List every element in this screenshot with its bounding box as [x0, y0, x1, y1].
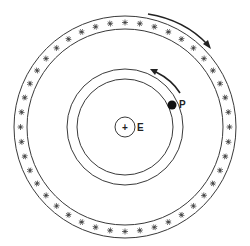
geocentric-diagram: + E P	[0, 0, 250, 246]
star-icon	[19, 139, 25, 145]
star-icon	[122, 229, 128, 235]
star-icon	[79, 219, 85, 225]
star-icon	[22, 154, 28, 160]
star-icon	[18, 124, 24, 130]
star-icon	[227, 124, 233, 130]
star-icon	[43, 56, 49, 62]
star-icon	[19, 109, 25, 115]
star-icon	[190, 45, 196, 51]
star-icon	[225, 109, 231, 115]
star-icon	[93, 24, 99, 30]
star-icon	[107, 21, 113, 27]
star-icon	[222, 95, 228, 101]
earth: + E	[115, 117, 144, 137]
star-icon	[107, 227, 113, 233]
star-icon	[217, 81, 223, 87]
planet-motion-arrow	[156, 72, 180, 93]
star-icon	[201, 192, 207, 198]
planet-dot	[168, 101, 177, 110]
star-icon	[201, 56, 207, 62]
star-icon	[27, 168, 33, 174]
star-icon	[225, 139, 231, 145]
star-icon	[210, 181, 216, 187]
star-icon	[152, 24, 158, 30]
earth-label: E	[137, 122, 144, 133]
star-icon	[137, 227, 143, 233]
star-icon	[166, 29, 172, 35]
star-icon	[27, 81, 33, 87]
star-icon	[54, 45, 60, 51]
star-icon	[66, 212, 72, 218]
star-icon	[222, 154, 228, 160]
star-icon	[152, 224, 158, 230]
star-icon	[79, 29, 85, 35]
star-icon	[137, 21, 143, 27]
planet-label: P	[179, 99, 186, 110]
star-icon	[93, 224, 99, 230]
star-icon	[43, 192, 49, 198]
star-icon	[179, 212, 185, 218]
star-icon	[122, 20, 128, 26]
star-icon	[22, 95, 28, 101]
star-icon	[217, 168, 223, 174]
star-icon	[34, 68, 40, 74]
star-icon	[66, 36, 72, 42]
star-icon	[166, 219, 172, 225]
earth-plus-icon: +	[122, 122, 128, 133]
star-icon	[179, 36, 185, 42]
star-icon	[34, 181, 40, 187]
star-icon	[54, 203, 60, 209]
star-icon	[210, 68, 216, 74]
star-icon	[190, 203, 196, 209]
diagram-canvas: + E P	[0, 0, 250, 246]
